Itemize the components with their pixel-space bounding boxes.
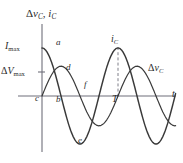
curve-label-voltage-sub: C — [159, 67, 163, 74]
point-label-a: a — [56, 38, 61, 47]
curve-label-current-sub: C — [114, 38, 118, 45]
plot-area — [0, 0, 183, 163]
curve-label-voltage: ΔvC — [148, 63, 163, 74]
point-label-e: e — [78, 136, 82, 145]
x-axis-title: t — [172, 89, 175, 99]
point-label-b: b — [56, 95, 61, 104]
tick-label-delta-v-max: ΔVmax — [1, 66, 25, 77]
capacitor-phase-figure: ΔvC, iC t Imax ΔVmax iC ΔvC a d c b f e … — [0, 0, 183, 163]
y-axis-title: ΔvC, iC — [26, 8, 56, 21]
point-label-d: d — [66, 63, 71, 72]
tick-label-i-max-sub: max — [8, 45, 19, 52]
point-label-f: f — [84, 80, 87, 89]
curve-label-current: iC — [111, 34, 118, 45]
tick-label-delta-v-max-sub: max — [14, 70, 25, 77]
period-label-T: T — [112, 94, 118, 104]
tick-label-i-max: Imax — [5, 41, 20, 52]
point-label-c: c — [35, 94, 39, 103]
